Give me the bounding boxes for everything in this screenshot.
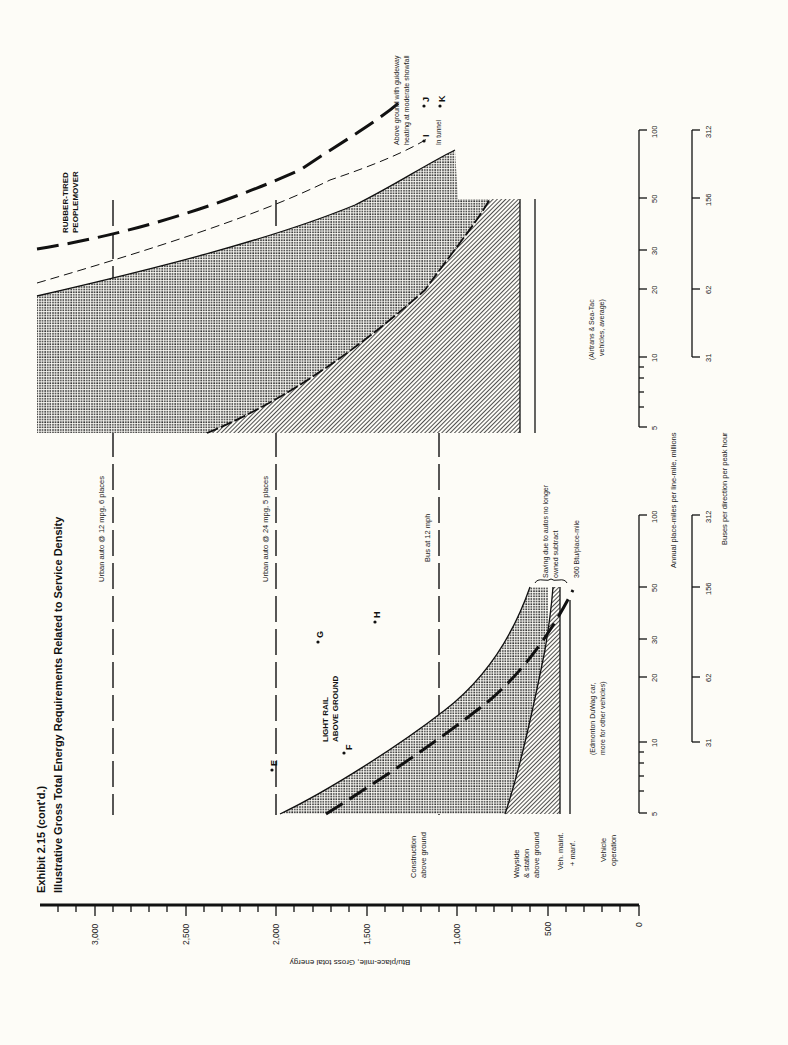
peoplemover-panel: RUBBER-TIRED PEOPLEMOVER Above ground wi… — [37, 55, 606, 433]
pm-tick-20: 20 — [650, 286, 659, 294]
veh-maint-label-2: + manf. — [568, 841, 577, 866]
peoplemover-label-2: PEOPLEMOVER — [71, 171, 80, 233]
saving-note-3: 360 Btu/place-mile — [573, 520, 581, 578]
pm-tick-5: 5 — [650, 426, 659, 430]
point-I: I — [421, 134, 431, 137]
chart-canvas: Exhibit 2.15 (cont'd.) Illustrative Gros… — [0, 0, 788, 1045]
saving-note-1: Saving due to autos no longer — [542, 484, 550, 578]
saving-note-2: owned subtract — [552, 530, 559, 578]
in-tunnel-label: In tunnel — [435, 120, 442, 145]
lr-tick-5: 5 — [650, 812, 659, 816]
peoplemover-vehicle-note-2: vehicles, average) — [598, 299, 606, 356]
pm-tick-100: 100 — [650, 125, 659, 138]
vehicle-operation-label-1: Vehicle — [599, 838, 608, 862]
peoplemover-vehicle-note-1: (Airtrans & Sea-Tac — [588, 299, 596, 360]
point-F: F — [344, 744, 354, 750]
lightrail-label-1: LIGHT RAIL — [321, 697, 330, 742]
place-miles-axis-title: Annual place-miles per line-mile, millio… — [669, 432, 678, 568]
construction-label-1: Construction — [409, 836, 418, 878]
buses-axis-title: Buses per direction per peak hour — [720, 432, 729, 545]
energy-tick-2500: 2,500 — [181, 923, 191, 945]
chart-title: Exhibit 2.15 (cont'd.) Illustrative Gros… — [35, 516, 64, 893]
lr-tick-20: 20 — [650, 674, 659, 682]
auto-12mpg-label: Urban auto @ 12 mpg, 6 places — [97, 476, 106, 582]
peoplemover-buses-axis — [692, 130, 700, 357]
lightrail-panel: Saving due to autos no longer owned subt… — [269, 484, 607, 814]
point-H: H — [372, 612, 382, 619]
lightrail-vehicle-note-2: more for other vehicles) — [599, 681, 607, 755]
energy-tick-0: 0 — [634, 922, 644, 927]
pm-tick-10: 10 — [650, 354, 659, 362]
lr-bus-tick-156: 156 — [704, 582, 713, 595]
lr-tick-100: 100 — [650, 510, 659, 523]
lr-tick-30: 30 — [650, 636, 659, 644]
lr-tick-10: 10 — [650, 739, 659, 747]
energy-tick-2000: 2,000 — [271, 923, 281, 945]
lightrail-label-2: ABOVE GROUND — [331, 676, 340, 742]
pm-tick-30: 30 — [650, 247, 659, 255]
guideway-heating-note-2: heating at moderate showfall — [403, 55, 411, 145]
vehicle-operation-label-2: operation — [609, 835, 618, 866]
energy-axis: 3,000 2,500 2,000 1,500 1,000 500 0 Btu/… — [40, 905, 644, 967]
bus-12mph-label: Bus at 12 mph — [423, 514, 432, 562]
lr-bus-tick-31: 31 — [704, 739, 713, 747]
energy-tick-3000: 3,000 — [90, 923, 100, 945]
energy-axis-label: Btu/place-mile, Gross total energy — [290, 958, 411, 967]
wayside-label-1: Wayside — [512, 850, 521, 878]
wayside-label-2: & station — [522, 849, 531, 878]
lightrail-place-miles-axis — [639, 515, 647, 813]
point-K: K — [437, 95, 447, 102]
lr-tick-50: 50 — [650, 584, 659, 592]
exhibit-title: Illustrative Gross Total Energy Requirem… — [52, 516, 64, 893]
energy-tick-500: 500 — [543, 922, 553, 936]
lightrail-vehicle-note-1: (Edmonton DuWag car, — [589, 682, 597, 755]
pm-bus-tick-62: 62 — [704, 286, 713, 294]
lr-bus-tick-62: 62 — [704, 674, 713, 682]
pm-bus-tick-31: 31 — [704, 354, 713, 362]
lightrail-buses-axis — [692, 515, 700, 742]
lr-bus-tick-312: 312 — [704, 510, 713, 523]
guideway-heating-note-1: Above ground with guideway — [393, 55, 401, 145]
peoplemover-place-miles-axis — [639, 130, 647, 427]
pm-bus-tick-156: 156 — [704, 193, 713, 206]
pm-bus-tick-312: 312 — [704, 125, 713, 138]
exhibit-number: Exhibit 2.15 (cont'd.) — [35, 786, 47, 893]
auto-24mpg-label: Urban auto @ 24 mpg, 5 places — [261, 476, 270, 582]
construction-label-2: above ground — [419, 832, 428, 878]
point-G: G — [315, 631, 325, 638]
veh-maint-label-1: Veh. maint. — [556, 832, 565, 870]
energy-tick-1000: 1,000 — [452, 923, 462, 945]
point-J: J — [421, 97, 431, 102]
component-labels: Construction above ground Wayside & stat… — [409, 832, 618, 878]
pm-tick-50: 50 — [650, 195, 659, 203]
point-E: E — [269, 760, 279, 766]
wayside-label-3: above ground — [532, 832, 541, 878]
peoplemover-label-1: RUBBER-TIRED — [61, 172, 70, 233]
energy-tick-1500: 1,500 — [362, 923, 372, 945]
